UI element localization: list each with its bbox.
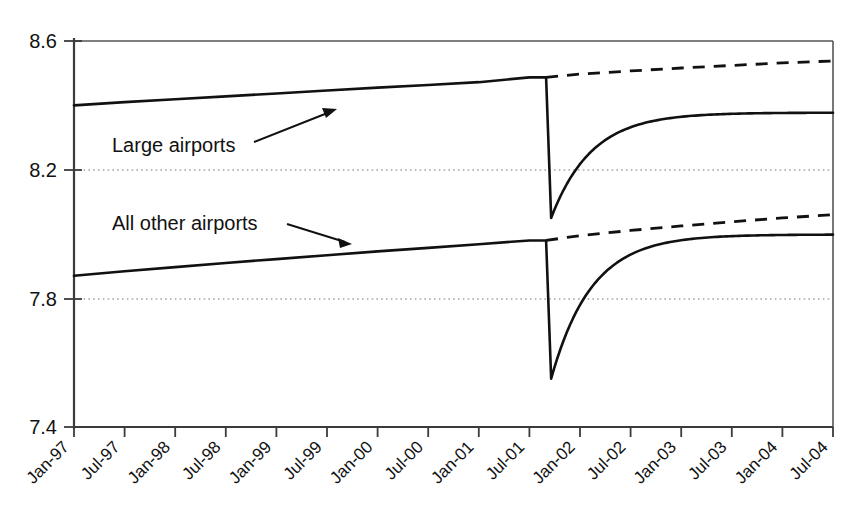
line-chart: 8.6 8.2 7.8 7.4 Jan-97Jul-97Jan-98Jul-98…	[0, 0, 866, 522]
x-tick-label-jul-00: Jul-00	[381, 437, 427, 483]
x-tick-label-jan-03: Jan-03	[630, 437, 680, 487]
series-all-other-airports-solid	[74, 235, 833, 379]
x-tick-label-jan-99: Jan-99	[225, 437, 275, 487]
x-tick-label-jan-01: Jan-01	[427, 437, 477, 487]
x-tick-label-jan-04: Jan-04	[731, 437, 781, 487]
x-tick-label-jul-03: Jul-03	[684, 437, 730, 483]
y-tick-label-7-4: 7.4	[29, 416, 57, 438]
x-tick-label-jan-02: Jan-02	[529, 437, 579, 487]
y-tick-label-7-8: 7.8	[29, 288, 57, 310]
annotation-label-all-other-airports: All other airports	[112, 212, 258, 234]
x-tick-label-jul-01: Jul-01	[482, 437, 528, 483]
series-large-airports-counterfactual	[546, 61, 833, 77]
annotation-label-large-airports: Large airports	[112, 134, 235, 156]
x-tick-label-jul-98: Jul-98	[178, 437, 224, 483]
leader-line-all-other-airports	[287, 224, 345, 242]
x-tick-marks	[74, 427, 833, 437]
chart-container: 8.6 8.2 7.8 7.4 Jan-97Jul-97Jan-98Jul-98…	[0, 0, 866, 522]
x-tick-labels: Jan-97Jul-97Jan-98Jul-98Jan-99Jul-99Jan-…	[23, 437, 832, 487]
annotation-labels: Large airports All other airports	[112, 134, 258, 234]
annotation-arrows	[254, 108, 352, 248]
y-tick-labels: 8.6 8.2 7.8 7.4	[29, 30, 57, 438]
arrowhead-all-other-airports	[338, 238, 352, 248]
x-tick-label-jan-97: Jan-97	[23, 437, 73, 487]
arrowhead-large-airports	[322, 108, 337, 118]
y-tick-label-8-2: 8.2	[29, 159, 57, 181]
x-tick-label-jul-04: Jul-04	[786, 437, 832, 483]
y-tick-label-8-6: 8.6	[29, 30, 57, 52]
x-tick-label-jan-00: Jan-00	[326, 437, 376, 487]
x-tick-label-jul-99: Jul-99	[280, 437, 326, 483]
gridlines	[74, 170, 833, 299]
series-all-other-airports-counterfactual	[546, 215, 833, 241]
x-tick-label-jul-97: Jul-97	[77, 437, 123, 483]
x-tick-label-jan-98: Jan-98	[124, 437, 174, 487]
x-tick-label-jul-02: Jul-02	[583, 437, 629, 483]
leader-line-large-airports	[254, 112, 330, 142]
